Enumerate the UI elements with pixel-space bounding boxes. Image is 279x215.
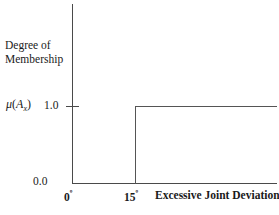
x-tick-label-0deg: 0º (64, 189, 72, 204)
x-axis-title: Excessive Joint Deviation (155, 189, 279, 203)
y-tick-label-zero: 0.0 (33, 175, 47, 189)
y-tick-label-one: 1.0 (44, 99, 58, 113)
x-axis-line (72, 183, 277, 184)
y-axis-line (72, 4, 73, 184)
x-tick-label-15deg: 15º (124, 189, 138, 204)
x-tick-15-value: 15 (124, 191, 136, 203)
membership-function-chart: Degree of Membership μ(Ax) 1.0 0.0 0º 15… (0, 0, 279, 215)
step-function-plateau (135, 106, 277, 107)
y-axis-title-line-2: Membership (5, 53, 63, 67)
y-axis-tick-1.0 (66, 106, 79, 107)
membership-notation: μ(Ax) (6, 97, 31, 114)
degree-symbol-icon: º (70, 189, 73, 198)
y-axis-title: Degree of Membership (5, 39, 63, 66)
step-function-riser (135, 106, 136, 184)
close-paren: ) (27, 97, 31, 111)
degree-symbol-icon: º (136, 189, 139, 198)
y-axis-title-line-1: Degree of (5, 39, 63, 53)
